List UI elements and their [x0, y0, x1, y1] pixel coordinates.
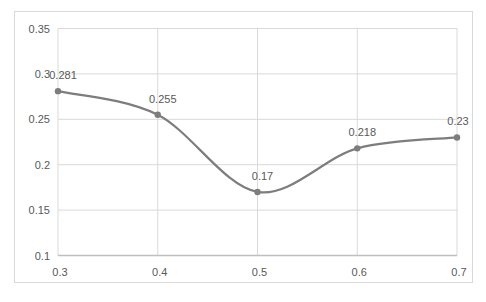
x-tick-label: 0.4 [152, 266, 167, 278]
chart-border [15, 12, 473, 283]
x-tick-label: 0.5 [252, 266, 267, 278]
y-tick-label: 0.3 [35, 68, 50, 80]
data-point-label: 0.23 [447, 115, 468, 127]
data-point-marker [454, 134, 460, 140]
data-point-marker [55, 88, 61, 94]
data-point-label: 0.281 [49, 69, 77, 81]
y-tick-label: 0.1 [35, 250, 50, 262]
y-tick-label: 0.25 [29, 113, 50, 125]
data-point-marker [354, 145, 360, 151]
x-tick-label: 0.7 [451, 266, 466, 278]
x-tick-label: 0.6 [352, 266, 367, 278]
x-tick-label: 0.3 [52, 266, 67, 278]
y-tick-label: 0.35 [29, 23, 50, 35]
data-point-label: 0.17 [252, 170, 273, 182]
data-point-label: 0.255 [149, 93, 177, 105]
y-tick-label: 0.2 [35, 159, 50, 171]
line-chart: 0.350.30.250.20.150.10.30.40.50.60.70.28… [0, 0, 486, 302]
chart-window: 0.350.30.250.20.150.10.30.40.50.60.70.28… [0, 0, 486, 302]
data-point-marker [254, 189, 260, 195]
data-point-label: 0.218 [348, 126, 376, 138]
y-tick-label: 0.15 [29, 204, 50, 216]
data-point-marker [155, 112, 161, 118]
